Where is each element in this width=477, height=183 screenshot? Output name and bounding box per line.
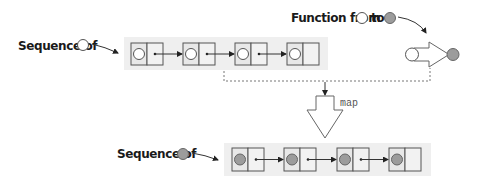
filled-circle-icon xyxy=(447,49,459,61)
transform-arrow-icon xyxy=(414,42,449,67)
empty-circle-icon xyxy=(186,49,197,60)
empty-circle-icon xyxy=(406,48,419,61)
filled-circle-icon xyxy=(340,154,351,165)
empty-circle-icon xyxy=(357,13,368,24)
empty-circle-icon xyxy=(290,49,301,60)
map-label: map xyxy=(340,98,358,109)
curved-arrow-icon xyxy=(398,17,426,33)
map-arrow-icon xyxy=(307,96,343,138)
list-node xyxy=(389,148,421,171)
map-diagram: Sequence of xyxy=(0,0,477,183)
filled-circle-icon xyxy=(178,149,189,160)
function-shape xyxy=(406,42,460,67)
output-sequence: Sequence of xyxy=(117,143,431,176)
function-label-middle: to xyxy=(371,11,384,25)
list-node xyxy=(287,43,319,65)
map-operation: map xyxy=(307,96,358,138)
empty-circle-icon xyxy=(78,40,89,51)
empty-circle-icon xyxy=(238,49,249,60)
input-sequence: Sequence of xyxy=(18,37,328,70)
function-description: Function from to xyxy=(291,11,426,33)
empty-circle-icon xyxy=(134,49,145,60)
filled-circle-icon xyxy=(392,154,403,165)
filled-circle-icon xyxy=(385,13,396,24)
filled-circle-icon xyxy=(235,154,246,165)
filled-circle-icon xyxy=(287,154,298,165)
